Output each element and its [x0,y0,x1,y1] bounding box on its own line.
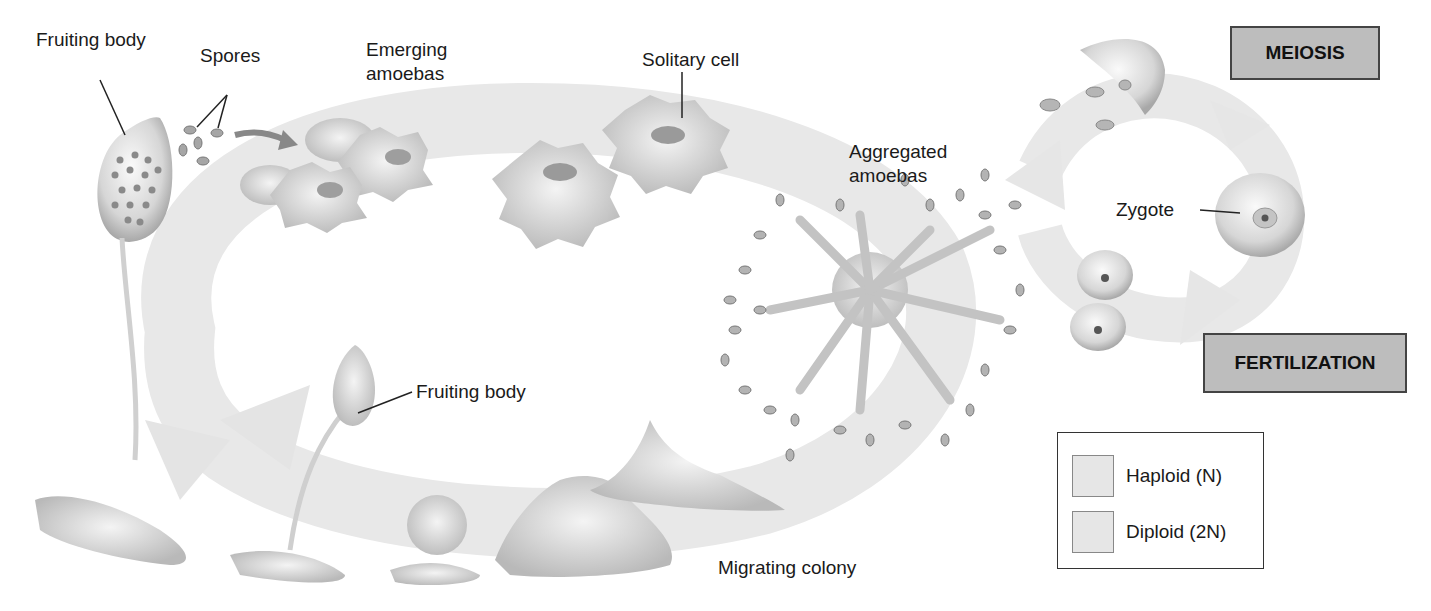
label-aggregated-amoebas-2: amoebas [849,164,927,187]
fertilization-box: FERTILIZATION [1203,333,1407,393]
label-migrating-colony: Migrating colony [718,556,856,579]
legend-label-haploid: Haploid (N) [1126,465,1222,487]
label-zygote: Zygote [1116,198,1174,221]
meiosis-box: MEIOSIS [1230,26,1380,80]
zygote-art [1215,173,1305,257]
legend-label-diploid: Diploid (2N) [1126,521,1226,543]
label-aggregated-amoebas-1: Aggregated [849,140,947,163]
label-emerging-amoebas-2: amoebas [366,62,444,85]
legend: Haploid (N) Diploid (2N) [1057,432,1264,569]
label-fruiting-body-bottom: Fruiting body [416,380,526,403]
spores-art [179,126,223,165]
label-spores: Spores [200,44,260,67]
label-fruiting-body-top: Fruiting body [36,28,146,51]
legend-item-haploid: Haploid (N) [1072,455,1222,497]
label-emerging-amoebas-1: Emerging [366,38,447,61]
label-solitary-cell: Solitary cell [642,48,739,71]
haploid-swatch [1072,455,1114,497]
diploid-swatch [1072,511,1114,553]
legend-item-diploid: Diploid (2N) [1072,511,1226,553]
